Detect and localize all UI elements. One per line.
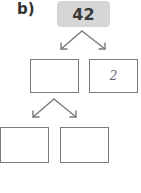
arrow-left-icon	[33, 99, 54, 117]
subfactor-box-left[interactable]	[0, 127, 49, 163]
arrow-right-icon	[82, 31, 105, 49]
subfactor-box-right[interactable]	[60, 127, 109, 163]
factor-box-left[interactable]	[30, 59, 79, 93]
factor-box-right[interactable]: 2	[89, 59, 138, 93]
arrow-right-icon	[54, 99, 76, 117]
tree-arrows	[0, 0, 141, 193]
arrow-left-icon	[61, 31, 82, 49]
